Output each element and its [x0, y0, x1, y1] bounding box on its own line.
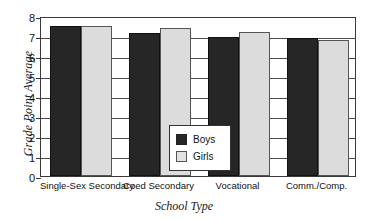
legend-label-boys: Boys [193, 135, 215, 145]
y-tick-label: 8 [29, 12, 35, 24]
y-tick-mark [36, 158, 41, 159]
bar-boys-1 [129, 33, 160, 176]
x-axis-title: School Type [0, 199, 368, 214]
y-tick-label: 7 [29, 32, 35, 44]
y-tick-label: 2 [29, 132, 35, 144]
legend-swatch-girls-icon [176, 151, 187, 162]
bar-chart: Grade Point Average 012345678 Single-Sex… [0, 0, 368, 220]
bar-girls-3 [318, 40, 349, 176]
bar-boys-0 [50, 26, 81, 176]
x-category-label-3: Comm./Comp. [277, 180, 356, 191]
bar-girls-2 [239, 32, 270, 176]
y-tick-label: 6 [29, 52, 35, 64]
legend-label-girls: Girls [193, 152, 214, 162]
bar-girls-0 [81, 26, 112, 176]
x-category-label-1: Coed Secondary [119, 180, 198, 191]
y-tick-label: 5 [29, 72, 35, 84]
y-tick-mark [36, 178, 41, 179]
y-tick-label: 3 [29, 112, 35, 124]
x-category-label-0: Single-Sex Secondary [40, 180, 119, 191]
y-tick-mark [36, 38, 41, 39]
y-tick-mark [36, 78, 41, 79]
y-tick-mark [36, 138, 41, 139]
legend-item-boys: Boys [176, 131, 224, 148]
legend-swatch-boys-icon [176, 134, 187, 145]
legend-item-girls: Girls [176, 148, 224, 165]
y-tick-label: 4 [29, 92, 35, 104]
y-tick-mark [36, 18, 41, 19]
y-tick-label: 0 [29, 172, 35, 184]
chart-legend: Boys Girls [169, 125, 231, 171]
x-category-label-2: Vocational [198, 180, 277, 191]
y-tick-mark [36, 118, 41, 119]
y-tick-mark [36, 98, 41, 99]
bar-boys-3 [287, 38, 318, 176]
y-tick-label: 1 [29, 152, 35, 164]
y-tick-mark [36, 58, 41, 59]
